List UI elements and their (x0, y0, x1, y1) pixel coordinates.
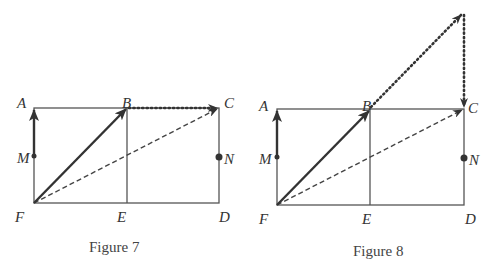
label-e: E (361, 211, 371, 227)
label-c: C (224, 95, 235, 111)
label-n: N (468, 152, 480, 168)
label-a: A (258, 98, 269, 114)
vector-b-apex (371, 15, 461, 107)
label-d: D (464, 211, 476, 227)
vector-fb (34, 109, 126, 203)
label-d: D (218, 209, 230, 225)
label-m: M (258, 151, 273, 167)
label-f: F (14, 209, 25, 225)
label-e: E (116, 209, 126, 225)
label-b: B (362, 98, 371, 114)
vector-fb (277, 111, 369, 205)
label-a: A (16, 95, 27, 111)
label-b: B (122, 95, 131, 111)
vector-fc (34, 109, 217, 203)
figure-8: A B C M N F E D Figure 8 (258, 15, 480, 259)
figure-caption: Figure 7 (89, 239, 140, 255)
point-m (32, 154, 37, 159)
figure-7: A B C M N F E D Figure 7 (14, 95, 235, 255)
label-c: C (468, 100, 479, 116)
figure-caption: Figure 8 (353, 243, 403, 259)
label-m: M (16, 150, 31, 166)
point-m (275, 155, 280, 160)
label-n: N (223, 151, 235, 167)
point-n (216, 154, 223, 161)
diagram-canvas: A B C M N F E D Figure 7 A B C M N F E D… (0, 0, 499, 272)
point-n (461, 155, 468, 162)
label-f: F (258, 211, 269, 227)
